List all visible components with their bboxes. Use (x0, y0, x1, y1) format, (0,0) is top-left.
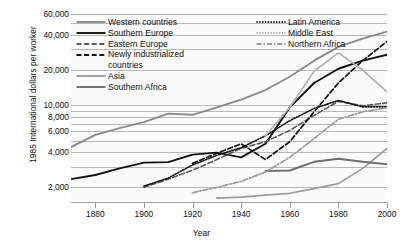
legend-item: Eastern Europe (76, 39, 246, 50)
x-axis-title: Year (0, 228, 403, 238)
legend-item: Middle East (256, 28, 386, 39)
legend-item-label: Southern Europe (108, 28, 173, 39)
legend-item: Southern Africa (76, 82, 246, 93)
x-tick-label: 1880 (86, 209, 105, 219)
x-tick (387, 203, 388, 208)
series-line (265, 53, 387, 136)
y-tick-label: 20,000 (43, 65, 69, 75)
legend-item-label: Western countries (108, 17, 177, 28)
x-tick-label: 1980 (329, 209, 348, 219)
y-tick-label: 60,000 (43, 9, 69, 19)
legend-item: Western countries (76, 17, 246, 28)
x-tick (290, 203, 291, 208)
y-tick-label: 6,000 (48, 126, 69, 136)
x-tick (338, 203, 339, 208)
x-tick (193, 203, 194, 208)
legend-swatch-solid-icon (76, 82, 106, 92)
legend-swatch-dotted-icon (256, 17, 286, 27)
chart-figure: 1985 International dollars per worker 2,… (0, 0, 403, 252)
y-axis-title: 1985 International dollars per worker (29, 0, 38, 190)
legend-item: Newly industrialized (76, 49, 246, 60)
x-tick (95, 203, 96, 208)
legend-item-label: Eastern Europe (108, 39, 168, 50)
legend-swatch-solid-icon (76, 17, 106, 27)
x-tick (144, 203, 145, 208)
legend-column-right: Latin AmericaMiddle EastNorthern Africa (256, 17, 386, 49)
legend-item-label: Latin America (288, 17, 340, 28)
y-tick-label: 4,000 (48, 147, 69, 157)
legend-item-label: Newly industrialized (108, 49, 184, 60)
x-tick (241, 203, 242, 208)
legend-item: Latin America (256, 17, 386, 28)
legend-item: Asia (76, 71, 246, 82)
legend-column-left: Western countriesSouthern EuropeEastern … (76, 17, 246, 93)
legend-swatch-dotted-icon (256, 28, 286, 38)
legend-swatch-solid-icon (76, 71, 106, 81)
legend-item: countries (76, 60, 246, 71)
legend-swatch-dashed-icon (76, 39, 106, 49)
y-tick-label: 10,000 (43, 100, 69, 110)
legend-item: Southern Europe (76, 28, 246, 39)
legend-swatch-dashdot-icon (256, 39, 286, 49)
y-tick-label: 40,000 (43, 30, 69, 40)
legend-item-label: Asia (108, 71, 125, 82)
x-tick-label: 1960 (280, 209, 299, 219)
legend-swatch-dashed-icon (76, 50, 106, 60)
legend-item-label: Northern Africa (288, 39, 345, 50)
legend-item: Northern Africa (256, 39, 386, 50)
x-axis-line (71, 202, 387, 203)
x-tick-label: 1940 (232, 209, 251, 219)
x-tick-label: 2000 (378, 209, 397, 219)
legend-item-label: Middle East (288, 28, 333, 39)
legend-swatch-solid-icon (76, 28, 106, 38)
legend-item-label: countries (108, 60, 143, 71)
y-tick-label: 2,000 (48, 182, 69, 192)
y-tick-label: 8,000 (48, 112, 69, 122)
x-tick-label: 1900 (135, 209, 154, 219)
x-tick-label: 1920 (183, 209, 202, 219)
legend-item-label: Southern Africa (108, 82, 167, 93)
